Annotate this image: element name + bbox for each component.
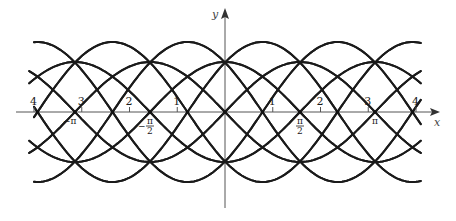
axis-crossing-dot <box>186 110 190 114</box>
pi-tick-label: π <box>372 116 378 126</box>
integer-tick-label: 2 <box>317 95 324 108</box>
axis-crossing-dot <box>261 110 265 114</box>
axis-crossing-dot <box>73 110 77 114</box>
svg-text:π: π <box>297 116 303 126</box>
function-family-diagram: x y 43211234−π−π2π2π <box>0 0 456 221</box>
axis-crossing-dot <box>373 110 377 114</box>
svg-text:2: 2 <box>297 126 303 136</box>
integer-tick-label: 1 <box>173 95 180 108</box>
integer-tick-label: 2 <box>126 95 133 108</box>
svg-text:π: π <box>147 116 153 126</box>
y-axis-label: y <box>211 8 219 21</box>
integer-tick-label: 3 <box>364 95 371 108</box>
pi-tick-label: −π <box>63 116 77 126</box>
axis-crossing-dot <box>111 110 115 114</box>
integer-tick-label: 1 <box>269 95 276 108</box>
axis-crossing-dot <box>411 110 415 114</box>
x-axis-label: x <box>434 116 441 129</box>
half-pi-tick-label: −π2 <box>138 116 154 136</box>
integer-tick-label: 3 <box>78 95 85 108</box>
svg-text:2: 2 <box>147 126 153 136</box>
axis-crossing-dot <box>148 110 152 114</box>
half-pi-tick-label: π2 <box>296 116 304 136</box>
svg-text:−: − <box>138 121 146 131</box>
axis-crossing-dot <box>36 110 40 114</box>
integer-tick-label: 4 <box>412 95 419 108</box>
axis-crossing-dot <box>223 110 227 114</box>
axis-crossing-dot <box>298 110 302 114</box>
axis-crossing-dot <box>336 110 340 114</box>
integer-tick-label: 4 <box>30 95 37 108</box>
